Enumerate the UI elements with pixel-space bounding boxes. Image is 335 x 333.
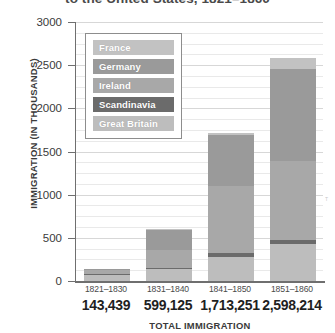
bar-segment-great-britain <box>146 269 192 281</box>
y-tick-label-2000: 2000 <box>20 102 62 114</box>
decade-label: 1831–1840 <box>137 284 199 294</box>
bar-segment-germany <box>146 230 192 249</box>
bar-1831–1840 <box>146 229 192 281</box>
y-tick-mark-0 <box>68 281 75 282</box>
gridline <box>76 22 323 23</box>
y-tick-mark-1500 <box>68 152 75 153</box>
bar-1851–1860 <box>270 58 316 281</box>
y-tick-label-500: 500 <box>20 232 62 244</box>
x-tick-label-1841–1850: 1841–1850 <box>199 284 261 294</box>
bar-segment-ireland <box>208 186 254 253</box>
chart-legend: FranceGermanyIrelandScandinaviaGreat Bri… <box>85 33 182 139</box>
y-tick-label-3000: 3000 <box>20 16 62 28</box>
decade-label: 1821–1830 <box>75 284 137 294</box>
y-tick-label-0: 0 <box>20 275 62 287</box>
total-immigration-value: 2,598,214 <box>255 297 329 313</box>
bar-segment-ireland <box>146 250 192 268</box>
legend-item-label: Great Britain <box>99 118 158 129</box>
cropped-edge-text: T <box>325 196 335 203</box>
y-tick-mark-3000 <box>68 22 75 23</box>
y-tick-label-1000: 1000 <box>20 189 62 201</box>
bar-segment-great-britain <box>208 257 254 281</box>
legend-item-france: France <box>93 40 174 55</box>
legend-item-great-britain: Great Britain <box>93 116 174 131</box>
x-tick-label-1851–1860: 1851–1860 <box>261 284 323 294</box>
legend-item-label: Ireland <box>99 80 131 91</box>
y-axis-tick-labels: 050010001500200025003000 <box>12 0 62 333</box>
x-axis-title: TOTAL IMMIGRATION <box>75 320 325 331</box>
bar-segment-ireland <box>270 161 316 240</box>
y-tick-mark-500 <box>68 238 75 239</box>
x-tick-label-1821–1830: 1821–1830 <box>75 284 137 294</box>
bar-segment-germany <box>208 135 254 186</box>
bar-1821–1830 <box>84 269 130 281</box>
legend-item-label: France <box>99 42 131 53</box>
bar-segment-germany <box>270 69 316 161</box>
x-tick-label-1831–1840: 1831–1840 <box>137 284 199 294</box>
y-tick-mark-1000 <box>68 195 75 196</box>
y-tick-mark-2000 <box>68 108 75 109</box>
y-tick-mark-2500 <box>68 65 75 66</box>
bar-segment-great-britain <box>270 244 316 281</box>
legend-item-label: Scandinavia <box>99 99 156 110</box>
legend-item-label: Germany <box>99 61 141 72</box>
legend-item-ireland: Ireland <box>93 78 174 93</box>
bar-segment-france <box>270 58 316 69</box>
y-tick-label-2500: 2500 <box>20 59 62 71</box>
legend-item-scandinavia: Scandinavia <box>93 97 174 112</box>
immigration-bar-chart: to the United States, 1821–1860 IMMIGRAT… <box>0 0 335 333</box>
legend-item-germany: Germany <box>93 59 174 74</box>
x-axis-line <box>75 281 325 283</box>
bar-1841–1850 <box>208 133 254 281</box>
decade-label: 1851–1860 <box>261 284 323 294</box>
y-tick-label-1500: 1500 <box>20 146 62 158</box>
decade-label: 1841–1850 <box>199 284 261 294</box>
